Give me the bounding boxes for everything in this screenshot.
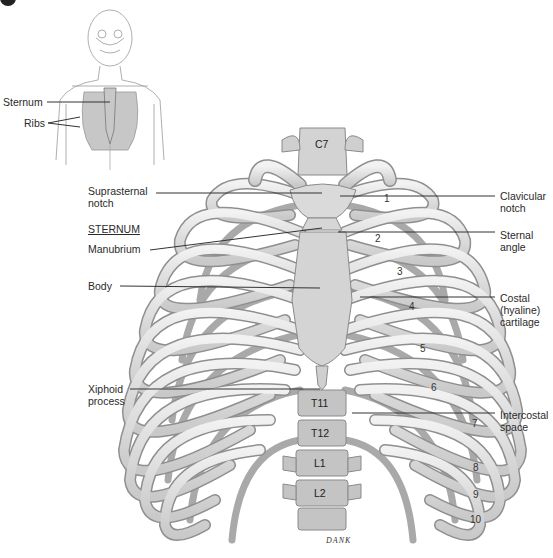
label-costal-cartilage: Costal (hyaline) cartilage — [500, 292, 540, 328]
sternum — [290, 184, 356, 390]
label-line: process — [88, 395, 125, 407]
label-sternum-heading: STERNUM — [88, 223, 140, 235]
label-intercostal-space: Intercostal space — [500, 409, 548, 433]
label-line: notch — [88, 197, 148, 209]
label-line: angle — [500, 241, 533, 253]
vertebra-t12: T12 — [311, 427, 329, 439]
rib-number-6: 6 — [431, 382, 437, 393]
rib-cage-illustration — [0, 0, 553, 558]
label-sternal-angle: Sternal angle — [500, 229, 533, 253]
vertebra-l2: L2 — [314, 487, 326, 499]
label-suprasternal-notch: Suprasternal notch — [88, 185, 148, 209]
inset-body-figure — [56, 10, 164, 170]
label-clavicular-notch: Clavicular notch — [500, 190, 546, 214]
label-line: notch — [500, 202, 546, 214]
vertebra-t11: T11 — [311, 397, 328, 409]
label-line: Costal — [500, 292, 540, 304]
label-line: Suprasternal — [88, 185, 148, 197]
rib-number-5: 5 — [420, 343, 426, 354]
inset-label-ribs: Ribs — [24, 117, 45, 129]
label-line: (hyaline) — [500, 304, 540, 316]
rib-number-10: 10 — [470, 514, 481, 525]
label-xiphoid-process: Xiphoid process — [88, 383, 125, 407]
rib-number-9: 9 — [473, 489, 479, 500]
vertebra-l1: L1 — [314, 457, 326, 469]
rib-number-3: 3 — [397, 266, 403, 277]
label-line: space — [500, 421, 548, 433]
label-line: Xiphoid — [88, 383, 125, 395]
inset-label-sternum: Sternum — [3, 96, 43, 108]
rib-number-4: 4 — [409, 301, 415, 312]
label-line: cartilage — [500, 316, 540, 328]
label-manubrium: Manubrium — [88, 243, 141, 255]
label-line: Intercostal — [500, 409, 548, 421]
rib-number-2: 2 — [375, 233, 381, 244]
rib-number-1: 1 — [384, 193, 390, 204]
rib-number-7: 7 — [472, 418, 478, 429]
thoracic-cage-figure: Sternum Ribs Suprasternal notch STERNUM … — [0, 0, 553, 558]
label-body: Body — [88, 280, 112, 292]
label-line: Clavicular — [500, 190, 546, 202]
rib-number-8: 8 — [473, 462, 479, 473]
artist-signature: DANK — [326, 536, 351, 545]
vertebra-c7: C7 — [315, 138, 328, 150]
label-line: Sternal — [500, 229, 533, 241]
